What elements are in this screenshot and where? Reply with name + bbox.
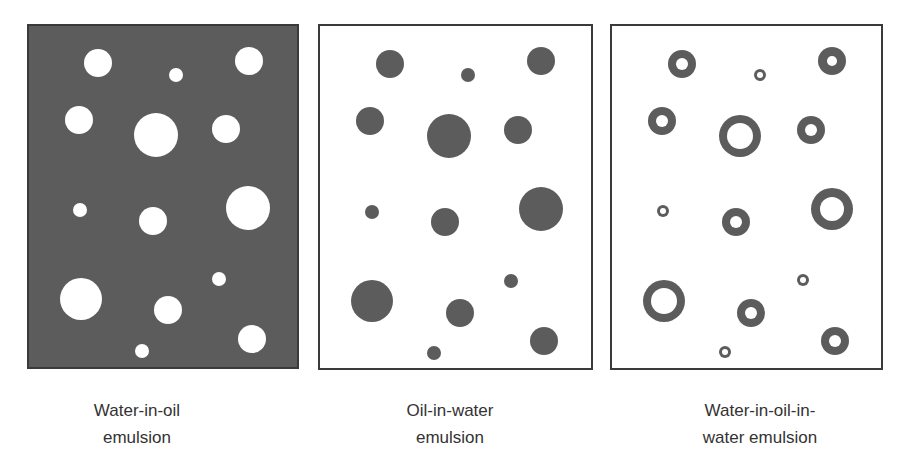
droplet <box>356 107 384 135</box>
inner-water-droplet <box>800 277 806 283</box>
inner-water-droplet <box>805 124 817 136</box>
oil-droplets-in-water <box>318 24 593 370</box>
double-emulsion-droplets <box>610 24 883 370</box>
caption-line-2: emulsion <box>27 424 247 451</box>
droplet <box>527 47 555 75</box>
droplet <box>84 49 112 77</box>
oil-in-water-caption: Oil-in-water emulsion <box>345 397 555 451</box>
inner-water-droplet <box>676 58 688 70</box>
inner-water-droplet <box>827 56 837 66</box>
droplet <box>376 50 404 78</box>
inner-water-droplet <box>745 307 757 319</box>
droplet <box>154 296 182 324</box>
droplet <box>169 68 183 82</box>
caption-line-1: Water-in-oil <box>27 397 247 424</box>
droplet <box>212 115 240 143</box>
droplet <box>134 113 178 157</box>
droplet <box>504 274 518 288</box>
inner-water-droplet <box>660 208 666 214</box>
droplet <box>139 207 167 235</box>
caption-line-2: water emulsion <box>640 424 880 451</box>
oil-in-water-panel <box>318 24 593 370</box>
inner-water-droplet <box>656 115 668 127</box>
water-in-oil-caption: Water-in-oil emulsion <box>27 397 247 451</box>
droplet <box>530 327 558 355</box>
inner-water-droplet <box>651 288 677 314</box>
droplet <box>504 116 532 144</box>
droplet <box>60 278 102 320</box>
water-in-oil-panel <box>27 24 299 369</box>
droplet <box>235 47 263 75</box>
caption-line-1: Oil-in-water <box>345 397 555 424</box>
droplet <box>226 186 270 230</box>
inner-water-droplet <box>727 123 753 149</box>
water-in-oil-in-water-caption: Water-in-oil-in- water emulsion <box>640 397 880 451</box>
water-in-oil-in-water-panel <box>610 24 883 370</box>
droplet <box>427 114 471 158</box>
droplet <box>65 106 93 134</box>
caption-line-2: emulsion <box>345 424 555 451</box>
droplet <box>446 299 474 327</box>
inner-water-droplet <box>722 349 728 355</box>
droplet <box>431 208 459 236</box>
droplet <box>427 346 441 360</box>
droplet <box>365 205 379 219</box>
inner-water-droplet <box>757 72 763 78</box>
inner-water-droplet <box>820 197 844 221</box>
water-droplets-in-oil <box>27 24 299 369</box>
inner-water-droplet <box>730 216 742 228</box>
droplet <box>238 325 266 353</box>
caption-line-1: Water-in-oil-in- <box>640 397 880 424</box>
droplet <box>73 203 87 217</box>
droplet <box>212 272 226 286</box>
droplet <box>351 280 393 322</box>
inner-water-droplet <box>829 335 841 347</box>
droplet <box>135 344 149 358</box>
droplet <box>519 187 563 231</box>
droplet <box>461 68 475 82</box>
